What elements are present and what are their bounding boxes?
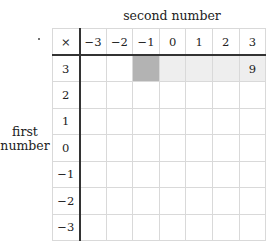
row-header: −2 xyxy=(53,188,80,215)
grid-cell xyxy=(106,214,133,241)
grid-cell xyxy=(212,161,239,188)
first-number-label-line1: first xyxy=(0,125,50,139)
grid-cell xyxy=(106,161,133,188)
grid-cell xyxy=(80,188,107,215)
grid-cell xyxy=(106,188,133,215)
grid-cell xyxy=(106,55,133,82)
row-header: −1 xyxy=(53,161,80,188)
grid-cell-value: 9 xyxy=(239,55,266,82)
grid-cell xyxy=(106,135,133,162)
grid-cell xyxy=(186,108,213,135)
row-header: 3 xyxy=(53,55,80,82)
grid-cell xyxy=(186,188,213,215)
grid-cell-shaded-light xyxy=(212,55,239,82)
column-header: −2 xyxy=(106,29,133,56)
grid-cell xyxy=(80,82,107,109)
grid-row: −3 xyxy=(53,214,266,241)
grid-row: 2 xyxy=(53,82,266,109)
grid-cell xyxy=(212,188,239,215)
grid-cell xyxy=(212,214,239,241)
grid-row: 1 xyxy=(53,108,266,135)
grid-cell-shaded-light xyxy=(186,55,213,82)
grid-cell xyxy=(80,135,107,162)
multiplication-grid: × −3 −2 −1 0 1 2 3 3 9 2 1 0 −1 −2 −3 xyxy=(52,28,266,241)
grid-cell xyxy=(159,188,186,215)
grid-cell xyxy=(133,135,160,162)
column-header: 3 xyxy=(239,29,266,56)
grid-cell xyxy=(106,108,133,135)
grid-cell xyxy=(133,214,160,241)
column-header: −1 xyxy=(133,29,160,56)
grid-cell xyxy=(186,82,213,109)
column-header: 2 xyxy=(212,29,239,56)
stray-dot xyxy=(38,38,40,40)
grid-cell xyxy=(80,108,107,135)
column-header: 0 xyxy=(159,29,186,56)
grid-cell xyxy=(212,108,239,135)
column-header: −3 xyxy=(80,29,107,56)
grid-row: 3 9 xyxy=(53,55,266,82)
grid-cell-shaded-dark xyxy=(133,55,160,82)
grid-cell xyxy=(239,161,266,188)
grid-cell xyxy=(159,135,186,162)
grid-cell-shaded-light xyxy=(159,55,186,82)
grid-cell xyxy=(106,82,133,109)
grid-cell xyxy=(186,135,213,162)
grid-cell xyxy=(133,82,160,109)
grid-cell xyxy=(239,82,266,109)
grid-cell xyxy=(159,82,186,109)
grid-cell xyxy=(239,214,266,241)
first-number-label-line2: number xyxy=(0,139,50,153)
grid-cell xyxy=(159,108,186,135)
grid-cell xyxy=(239,135,266,162)
grid-cell xyxy=(186,214,213,241)
grid-row: −2 xyxy=(53,188,266,215)
second-number-label: second number xyxy=(79,8,265,23)
grid-cell xyxy=(159,161,186,188)
grid-cell xyxy=(212,135,239,162)
grid-row: −1 xyxy=(53,161,266,188)
row-header: 1 xyxy=(53,108,80,135)
grid-cell xyxy=(239,188,266,215)
column-header: 1 xyxy=(186,29,213,56)
grid-row: 0 xyxy=(53,135,266,162)
first-number-label: first number xyxy=(0,125,50,153)
grid-cell xyxy=(239,108,266,135)
grid-cell xyxy=(159,214,186,241)
header-row: × −3 −2 −1 0 1 2 3 xyxy=(53,29,266,56)
corner-times-symbol: × xyxy=(53,29,80,56)
grid-cell xyxy=(133,161,160,188)
grid-cell xyxy=(186,161,213,188)
grid-cell xyxy=(80,161,107,188)
grid-cell xyxy=(212,82,239,109)
row-header: 2 xyxy=(53,82,80,109)
grid-cell xyxy=(80,214,107,241)
row-header: −3 xyxy=(53,214,80,241)
grid-cell xyxy=(133,188,160,215)
grid-cell xyxy=(133,108,160,135)
row-header: 0 xyxy=(53,135,80,162)
grid-cell xyxy=(80,55,107,82)
